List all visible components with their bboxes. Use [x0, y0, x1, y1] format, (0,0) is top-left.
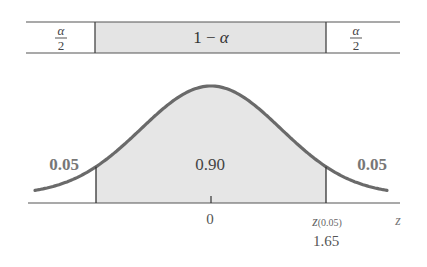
zero-tick-label: 0 [206, 211, 214, 228]
band-center-label: 1 − α [193, 28, 229, 48]
critical-z-label: z(0.05) [312, 214, 342, 230]
band-right-denominator: 2 [353, 40, 360, 52]
critical-z-subscript: (0.05) [318, 217, 342, 228]
normal-distribution-figure: α 2 1 − α α 2 0.05 0.90 0.05 0 z(0.05) 1… [0, 0, 427, 267]
center-area-shade [96, 86, 326, 203]
center-area-label: 0.90 [195, 155, 225, 175]
band-left-denominator: 2 [58, 40, 65, 52]
band-right-numerator: α [351, 25, 362, 37]
z-axis-label: z [395, 213, 400, 229]
critical-value-label: 1.65 [313, 233, 339, 250]
band-right-fraction: α 2 [350, 25, 362, 52]
band-center-alpha: α [220, 28, 229, 47]
band-center-prefix: 1 − [193, 28, 220, 47]
band-left-numerator: α [56, 25, 67, 37]
left-tail-area-label: 0.05 [49, 155, 79, 175]
band-left-fraction: α 2 [55, 25, 67, 52]
right-tail-area-label: 0.05 [357, 155, 387, 175]
